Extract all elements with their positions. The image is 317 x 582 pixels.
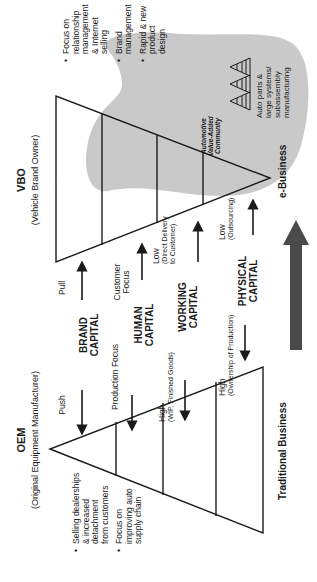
physical-high-label: High (Ownership of Production) [218, 316, 235, 396]
vbo-subtitle: (Vehicle Brand Owner) [31, 120, 40, 240]
e-business-label: e-Business [278, 145, 289, 198]
oem-bullets: Selling dealerships & increased detachme… [72, 473, 149, 552]
oem-bullet: Selling dealerships & increased detachme… [72, 473, 110, 552]
oem-bullet: Focus on improving auto supply chain [115, 473, 144, 552]
oem-title: OEM [16, 390, 28, 490]
working-low-label: Low (Direct Delivery to Customer) [152, 216, 177, 264]
vbo-bullets: Focus on relationship management & Inter… [62, 4, 172, 62]
vbo-title: VBO [16, 130, 28, 230]
working-capital-label: WORKING CAPITAL [177, 272, 199, 342]
value-added-community-label: Automotive Value-Added Community [200, 108, 221, 164]
vbo-bullet: Focus on relationship management & Inter… [62, 4, 110, 62]
vbo-bullet: Brand management [115, 4, 134, 62]
working-high-label: High (WIP, Finished Goods) [158, 348, 175, 422]
push-label: Push [58, 390, 67, 420]
human-capital-label: HUMAN CAPITAL [133, 290, 155, 360]
pull-label: Pull [58, 273, 67, 303]
customer-focus-label: Customer Focus [113, 262, 132, 302]
traditional-business-label: Traditional Business [278, 402, 289, 500]
production-focus-label: Production Focus [111, 342, 120, 412]
physical-low-label: Low (Outsourcing) [218, 196, 235, 240]
vbo-bullet: Rapid & new product design [139, 4, 168, 62]
transition-arrow-icon [283, 220, 309, 350]
auto-parts-label: Auto parts & large systems/ subassembly … [256, 66, 292, 118]
physical-capital-label: PHYSICAL CAPITAL [237, 246, 259, 316]
oem-subtitle: (Original Equipment Manufacturer) [31, 360, 40, 520]
business-model-diagram: OEM (Original Equipment Manufacturer) VB… [0, 0, 317, 582]
brand-capital-label: BRAND CAPITAL [78, 300, 100, 370]
